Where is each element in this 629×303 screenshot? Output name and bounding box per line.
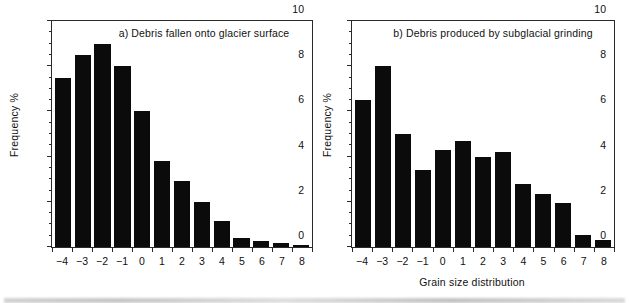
x-tick-label: 3 [500, 255, 506, 267]
y-tick-minor [49, 77, 52, 78]
x-tick-label: 0 [440, 255, 446, 267]
x-tick [252, 247, 253, 252]
x-tick-label: 2 [179, 255, 185, 267]
bar-cell [533, 21, 553, 247]
x-tick [473, 247, 474, 252]
x-tick-label: −2 [396, 255, 408, 267]
bar-0 [134, 111, 150, 247]
x-tick-label: 7 [581, 255, 587, 267]
x-tick-label: 6 [561, 255, 567, 267]
bar--4 [355, 100, 371, 247]
bar-5 [233, 238, 249, 247]
x-tick-label: 4 [219, 255, 225, 267]
x-tick [232, 247, 233, 252]
x-axis-label: Grain size distribution [315, 276, 629, 288]
bar-7 [273, 243, 289, 247]
y-tick-minor [349, 144, 352, 145]
y-tick-minor [349, 77, 352, 78]
bar--2 [94, 44, 110, 247]
x-tick-label: 7 [279, 255, 285, 267]
x-tick [574, 247, 575, 252]
bar-cell [413, 21, 433, 247]
y-tick-minor [349, 212, 352, 213]
y-tick-minor [349, 88, 352, 89]
x-tick-label: 8 [601, 255, 607, 267]
bar-cell [212, 21, 232, 247]
panel-a-bar-series [52, 21, 312, 247]
panel-b-bar-series [352, 21, 614, 247]
bar-6 [253, 241, 269, 247]
x-tick [192, 247, 193, 252]
bar-cell [172, 21, 192, 247]
x-tick-label: −3 [376, 255, 388, 267]
y-tick-label: 0 [298, 229, 304, 241]
x-tick-label: 2 [480, 255, 486, 267]
bar-8 [595, 240, 611, 247]
y-tick-label: 10 [292, 3, 304, 15]
bar-cell [113, 21, 133, 247]
y-tick-label: 0 [600, 229, 606, 241]
y-tick-minor [49, 223, 52, 224]
bar-3 [495, 152, 511, 247]
x-tick [112, 247, 113, 252]
bar-cell [473, 21, 493, 247]
y-tick-major [47, 156, 52, 157]
y-tick-label: 6 [298, 93, 304, 105]
y-tick-major [47, 65, 52, 66]
bar--2 [395, 134, 411, 247]
y-tick-minor [49, 88, 52, 89]
y-tick-minor [349, 133, 352, 134]
y-tick-minor [49, 190, 52, 191]
y-tick-label: 8 [600, 48, 606, 60]
x-tick [453, 247, 454, 252]
x-tick [372, 247, 373, 252]
y-tick-major [47, 201, 52, 202]
bar-cell [232, 21, 252, 247]
y-tick-minor [349, 167, 352, 168]
bar--4 [55, 78, 71, 248]
y-tick-label: 6 [600, 93, 606, 105]
x-tick [493, 247, 494, 252]
bar--1 [415, 170, 431, 247]
bar--3 [375, 66, 391, 247]
bar-cell [251, 21, 271, 247]
x-tick [533, 247, 534, 252]
x-tick [352, 247, 353, 252]
x-tick-label: −4 [356, 255, 368, 267]
x-tick-label: 4 [520, 255, 526, 267]
x-tick-label: 1 [159, 255, 165, 267]
bar--1 [114, 66, 130, 247]
bar-4 [515, 184, 531, 247]
y-tick-minor [49, 43, 52, 44]
y-tick-label: 8 [298, 48, 304, 60]
panel-b: Frequency % b) Debris produced by subgla… [315, 0, 629, 303]
y-tick-minor [349, 122, 352, 123]
panel-b-y-axis-label: Frequency % [321, 5, 335, 245]
panel-a: Frequency % a) Debris fallen onto glacie… [0, 0, 314, 303]
x-tick [52, 247, 53, 252]
y-tick-label: 2 [298, 184, 304, 196]
bar-cell [573, 21, 593, 247]
x-tick-label: 1 [460, 255, 466, 267]
y-tick-label: 4 [600, 139, 606, 151]
bar-1 [455, 141, 471, 247]
y-tick-major [347, 110, 352, 111]
bar-2 [475, 157, 491, 247]
x-tick-label: 0 [139, 255, 145, 267]
y-tick-minor [49, 178, 52, 179]
x-tick-label: −1 [417, 255, 429, 267]
bar-8 [293, 245, 309, 247]
x-tick [614, 247, 615, 252]
bar-cell [93, 21, 113, 247]
bar-cell [433, 21, 453, 247]
x-tick [594, 247, 595, 252]
bar-3 [194, 202, 210, 247]
x-tick [292, 247, 293, 252]
bar-6 [555, 203, 571, 247]
bar-cell [271, 21, 291, 247]
y-tick-minor [349, 190, 352, 191]
y-tick-major [347, 201, 352, 202]
x-tick [272, 247, 273, 252]
bar-cell [373, 21, 393, 247]
bar--3 [75, 55, 91, 247]
